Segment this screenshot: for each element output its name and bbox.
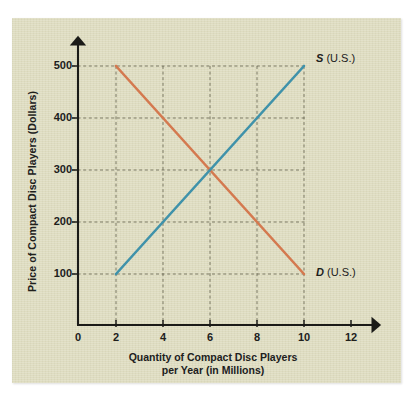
x-tick-label-8: 8 — [242, 331, 272, 343]
y-tick-label-300: 300 — [32, 163, 72, 175]
y-tick-label-500: 500 — [32, 59, 72, 71]
demand-curve-symbol: D — [316, 266, 324, 278]
y-axis-title: Price of Compact Disc Players (Dollars) — [26, 92, 38, 292]
x-axis-title: Quantity of Compact Disc Players per Yea… — [78, 351, 348, 377]
supply-curve-label: S (U.S.) — [316, 52, 355, 64]
grid-vertical — [116, 66, 304, 324]
x-axis-title-line2: per Year (in Millions) — [162, 364, 265, 376]
x-tick-label-10: 10 — [289, 331, 319, 343]
x-tick-label-4: 4 — [148, 331, 178, 343]
demand-curve-suffix: (U.S.) — [324, 266, 356, 278]
figure-container: 500 400 300 200 100 0 2 4 6 8 10 12 Pric… — [0, 0, 419, 403]
x-tick-label-2: 2 — [101, 331, 131, 343]
x-axis-title-line1: Quantity of Compact Disc Players — [129, 351, 298, 363]
x-tick-label-12: 12 — [336, 331, 366, 343]
y-tick-label-200: 200 — [32, 215, 72, 227]
y-tick-label-100: 100 — [32, 267, 72, 279]
demand-curve-label: D (U.S.) — [316, 266, 356, 278]
x-tick-label-0: 0 — [63, 331, 93, 343]
x-tick-label-6: 6 — [195, 331, 225, 343]
y-tick-label-400: 400 — [32, 111, 72, 123]
supply-curve-suffix: (U.S.) — [323, 52, 355, 64]
grid-horizontal — [72, 66, 306, 274]
